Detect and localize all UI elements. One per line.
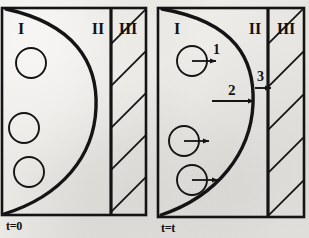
region-label-III-right: III bbox=[277, 20, 296, 37]
flux-label-3: 3 bbox=[257, 69, 264, 84]
particle-right-2-group bbox=[169, 126, 209, 156]
region-label-III-left: III bbox=[119, 20, 138, 37]
particle-left-2 bbox=[9, 113, 39, 143]
time-caption-later: t=t bbox=[161, 221, 175, 236]
diffusion-figure: I II III 1 bbox=[0, 0, 309, 238]
region-label-I-right: I bbox=[174, 20, 180, 37]
region-label-I-left: I bbox=[18, 20, 24, 37]
panel-left-frame bbox=[2, 8, 146, 215]
time-caption-initial: t=0 bbox=[6, 219, 22, 234]
flux-label-2: 2 bbox=[228, 82, 236, 98]
particle-right-3-group bbox=[177, 165, 218, 195]
particle-left-3 bbox=[14, 157, 44, 187]
region-label-II-left: II bbox=[92, 20, 104, 37]
particle-left-1 bbox=[16, 48, 46, 78]
region-label-II-right: II bbox=[249, 20, 261, 37]
particle-right-1-group: 1 bbox=[177, 42, 220, 76]
panel-right: 1 2 3 I II III bbox=[158, 0, 309, 238]
flux-label-1: 1 bbox=[213, 42, 220, 57]
panel-left: I II III bbox=[2, 0, 160, 238]
flux-arrow-2-group: 2 bbox=[212, 82, 254, 101]
